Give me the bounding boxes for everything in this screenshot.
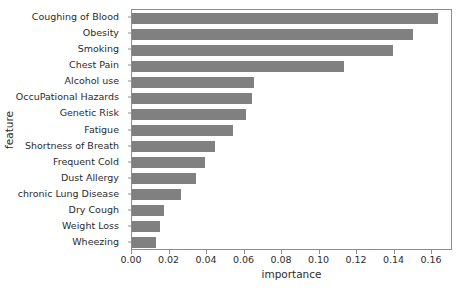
bar-fill xyxy=(132,189,181,200)
x-tick-label-7: 0.12 xyxy=(345,254,366,265)
y-tick-label-14: Weight Loss xyxy=(62,221,119,231)
bar-fill xyxy=(132,45,393,56)
x-tick-mark-2 xyxy=(169,250,170,254)
chart-figure: feature Coughing of BloodObesitySmokingC… xyxy=(0,0,467,295)
bar-2 xyxy=(132,29,413,40)
x-axis-title: importance xyxy=(0,268,467,280)
x-tick-label-2: 0.02 xyxy=(158,254,179,265)
y-tick-label-13: Dry Cough xyxy=(69,205,119,215)
x-tick-mark-4 xyxy=(244,250,245,254)
y-tick-label-11: Dust Allergy xyxy=(61,173,119,183)
x-tick-label-6: 0.10 xyxy=(308,254,329,265)
bar-12 xyxy=(132,189,181,200)
bar-8 xyxy=(132,125,233,136)
y-tick-label-6: OccuPational Hazards xyxy=(16,92,119,102)
x-axis-title-text: importance xyxy=(262,268,322,280)
bar-fill xyxy=(132,109,246,120)
bar-5 xyxy=(132,77,254,88)
bar-15 xyxy=(132,237,156,248)
y-tick-label-9: Shortness of Breath xyxy=(25,141,119,151)
bar-fill xyxy=(132,205,164,216)
bar-series xyxy=(132,10,451,249)
y-tick-label-7: Genetic Risk xyxy=(60,108,119,118)
bar-fill xyxy=(132,125,233,136)
bar-fill xyxy=(132,221,160,232)
bar-fill xyxy=(132,29,413,40)
bar-fill xyxy=(132,173,196,184)
bar-fill xyxy=(132,77,254,88)
bar-fill xyxy=(132,237,156,248)
y-axis-tick-labels: Coughing of BloodObesitySmokingChest Pai… xyxy=(0,0,127,295)
x-tick-label-1: 0.00 xyxy=(120,254,141,265)
y-tick-label-10: Frequent Cold xyxy=(53,157,119,167)
bar-11 xyxy=(132,173,196,184)
y-tick-label-5: Alcohol use xyxy=(65,76,119,86)
x-tick-label-8: 0.14 xyxy=(383,254,404,265)
bar-fill xyxy=(132,157,205,168)
bar-13 xyxy=(132,205,164,216)
x-tick-mark-5 xyxy=(281,250,282,254)
bar-fill xyxy=(132,13,438,24)
bar-9 xyxy=(132,141,215,152)
x-tick-label-4: 0.06 xyxy=(233,254,254,265)
x-tick-label-3: 0.04 xyxy=(195,254,216,265)
bar-14 xyxy=(132,221,160,232)
y-tick-label-1: Coughing of Blood xyxy=(32,12,119,22)
y-tick-label-2: Obesity xyxy=(83,28,119,38)
y-tick-label-3: Smoking xyxy=(78,44,119,54)
y-tick-label-12: chronic Lung Disease xyxy=(18,189,119,199)
bar-4 xyxy=(132,61,344,72)
x-tick-mark-7 xyxy=(356,250,357,254)
plot-area xyxy=(131,9,452,250)
bar-fill xyxy=(132,93,252,104)
x-tick-mark-9 xyxy=(431,250,432,254)
bar-7 xyxy=(132,109,246,120)
x-tick-label-5: 0.08 xyxy=(270,254,291,265)
y-tick-label-15: Wheezing xyxy=(72,237,119,247)
x-tick-label-9: 0.16 xyxy=(420,254,441,265)
bar-fill xyxy=(132,61,344,72)
bar-fill xyxy=(132,141,215,152)
bar-3 xyxy=(132,45,393,56)
x-tick-mark-3 xyxy=(206,250,207,254)
y-tick-label-4: Chest Pain xyxy=(69,60,119,70)
bar-1 xyxy=(132,13,438,24)
x-tick-mark-1 xyxy=(131,250,132,254)
bar-10 xyxy=(132,157,205,168)
y-tick-label-8: Fatigue xyxy=(84,125,119,135)
x-tick-mark-8 xyxy=(394,250,395,254)
bar-6 xyxy=(132,93,252,104)
x-tick-mark-6 xyxy=(319,250,320,254)
